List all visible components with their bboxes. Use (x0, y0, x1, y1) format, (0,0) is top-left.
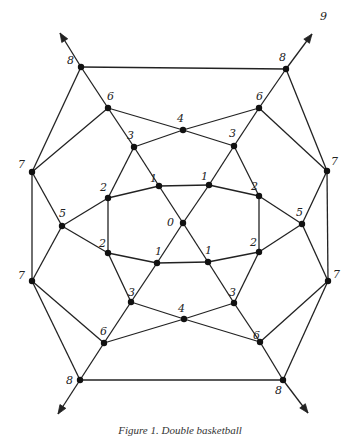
edge-3TR-1TR (209, 146, 234, 185)
vertex-label-7TL: 7 (18, 158, 25, 171)
vertex-label-6TL: 6 (107, 90, 114, 103)
edge-6TR-4T (183, 108, 259, 130)
edge-6TL-7TL (32, 108, 108, 172)
vertex-label-7TR: 7 (331, 155, 338, 168)
arrowhead-icon-up-right (304, 34, 312, 43)
edge-4B-6BL (104, 319, 184, 343)
edge-8TL-6TL (81, 67, 108, 108)
vertex-label-7BR: 7 (333, 268, 340, 281)
edge-6TL-4T (108, 108, 183, 130)
vertex-label-5L: 5 (59, 207, 66, 220)
edge-1BL-2BL (108, 253, 157, 263)
edge-4T-3TL (134, 130, 183, 147)
vertex-label-5R: 5 (296, 206, 303, 219)
vertex-5R (299, 221, 305, 227)
vertex-label-8BR: 8 (275, 384, 282, 397)
figure-caption: Figure 1. Double basketball (0, 424, 360, 436)
arrowhead-icon-down-right (300, 404, 308, 413)
vertex-8BR (280, 377, 286, 383)
vertex-label-3BL: 3 (128, 286, 135, 299)
edge-5R-2BR (259, 224, 302, 252)
edge-7BR-8BR (283, 281, 328, 380)
vertex-label-2TL: 2 (99, 181, 107, 194)
edge-1BL-1BR (157, 262, 208, 263)
vertex-label-0: 0 (167, 216, 174, 229)
edge-1BR-2BR (208, 252, 259, 262)
edge-1TL-1TR (159, 185, 209, 186)
vertex-label-1TL: 1 (150, 172, 157, 185)
vertex-2TR (256, 193, 262, 199)
vertex-3BR (231, 300, 237, 306)
vertex-label-6BR: 6 (253, 329, 260, 342)
vertex-label-3BR: 3 (229, 286, 236, 299)
arrowhead-icon-up-left (60, 33, 68, 42)
truncated-graph-diagram: 9 88664331122055777722113346688 (0, 0, 360, 436)
vertex-8TR (283, 66, 289, 72)
vertex-2BL (105, 250, 111, 256)
edge-7BL-8BL (32, 281, 80, 380)
edge-1TR-0 (183, 185, 209, 223)
edge-5R-7BR (302, 224, 328, 281)
vertex-7BL (29, 278, 35, 284)
edge-8TR-6TR (259, 69, 286, 108)
vertex-label-8BL: 8 (66, 374, 73, 387)
vertex-label-3TL: 3 (127, 129, 134, 142)
vertex-2TL (105, 195, 111, 201)
edge-2TL-5L (62, 198, 108, 226)
vertex-1BR (205, 259, 211, 265)
vertex-5L (59, 223, 65, 229)
vertex-label-1BL: 1 (155, 245, 162, 258)
vertex-label-2BL: 2 (98, 237, 106, 250)
vertex-label-2BR: 2 (249, 236, 257, 249)
edge-3BL-4B (131, 302, 184, 319)
vertex-3TR (231, 143, 237, 149)
edge-6BL-8BL (80, 343, 104, 380)
edge-2BR-3BR (234, 252, 259, 303)
vertex-label-8TR: 8 (279, 51, 286, 64)
vertex-8BL (77, 377, 83, 383)
edge-3BL-6BL (104, 302, 131, 343)
vertex-0 (180, 220, 186, 226)
vertex-label-1BR: 1 (205, 244, 212, 257)
vertex-label-7BL: 7 (18, 269, 25, 282)
vertex-8TL (78, 64, 84, 70)
edge-7TR-7BR (327, 171, 328, 281)
vertex-4B (181, 316, 187, 322)
arrow-label: 9 (320, 10, 327, 23)
vertex-label-1TR: 1 (201, 170, 208, 183)
edge-4T-3TR (183, 130, 234, 146)
vertex-4T (180, 127, 186, 133)
vertex-label-6BL: 6 (100, 325, 107, 338)
edge-6TR-7TR (259, 108, 327, 171)
vertex-label-4B: 4 (177, 302, 185, 315)
vertex-7TL (29, 169, 35, 175)
edge-3BR-4B (184, 303, 234, 319)
vertex-3BL (128, 299, 134, 305)
edge-8TL-8TR (81, 67, 286, 69)
vertex-label-4T: 4 (176, 112, 184, 125)
edge-8TL-7TL (32, 67, 81, 172)
vertex-7BR (325, 278, 331, 284)
vertex-2BR (256, 249, 262, 255)
edge-6BR-8BR (260, 342, 283, 380)
vertex-6TL (105, 105, 111, 111)
vertex-label-8TL: 8 (67, 54, 74, 67)
edge-5L-7BL (32, 226, 62, 281)
vertex-1BL (154, 260, 160, 266)
edge-1TL-2TL (108, 186, 159, 198)
arrowhead-icon-down-left (58, 405, 66, 414)
edge-4B-6BR (184, 319, 260, 342)
edge-5L-7TL (32, 172, 62, 226)
vertex-7TR (324, 168, 330, 174)
edge-8TR-7TR (286, 69, 327, 171)
edge-6BR-7BR (260, 281, 328, 342)
vertex-label-2TR: 2 (250, 180, 258, 193)
edge-6BL-7BL (32, 281, 104, 343)
vertex-label-3TR: 3 (229, 127, 236, 140)
vertex-label-6TR: 6 (256, 90, 263, 103)
vertex-6TR (256, 105, 262, 111)
edge-5R-7TR (302, 171, 327, 224)
vertex-3TL (131, 144, 137, 150)
edge-3TL-2TL (108, 147, 134, 198)
vertex-6BL (101, 340, 107, 346)
